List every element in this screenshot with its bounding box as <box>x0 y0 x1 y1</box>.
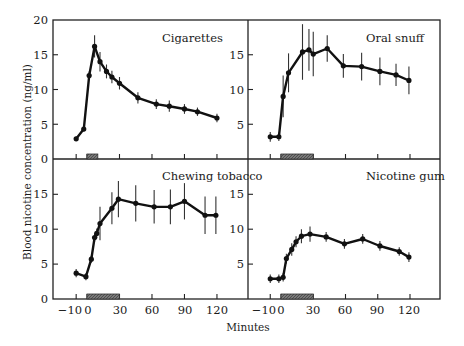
x-axis-left: −10 0 30 60 90 120 <box>58 303 228 317</box>
data-point <box>268 134 273 139</box>
xtick-label: 120 <box>398 303 420 317</box>
exposure-period-bar <box>281 154 313 159</box>
data-point <box>406 78 411 83</box>
xtick-label: 60 <box>145 303 160 317</box>
data-point <box>117 81 122 86</box>
xtick-label: 90 <box>178 303 193 317</box>
y-axis-bottom-right: 15 10 5 <box>229 187 244 271</box>
data-point <box>89 257 94 262</box>
ytick-label: 15 <box>229 187 244 201</box>
data-point <box>281 275 286 280</box>
data-point <box>109 206 114 211</box>
xtick-label: 0 <box>277 303 284 317</box>
ytick-label: 5 <box>237 257 244 271</box>
ytick-label: 10 <box>229 83 244 97</box>
data-point <box>324 234 329 239</box>
data-point <box>87 73 92 78</box>
y-axis-top-left: 20 15 10 5 0 <box>33 13 48 166</box>
ytick-label: 5 <box>237 118 244 132</box>
data-point <box>360 236 365 241</box>
data-point <box>289 247 294 252</box>
xtick-label: 90 <box>370 303 385 317</box>
data-point <box>182 199 187 204</box>
series-line-oral-snuff <box>270 49 409 137</box>
xtick-label: −10 <box>252 303 276 317</box>
data-point <box>377 243 382 248</box>
ytick-label: 15 <box>229 48 244 62</box>
data-point <box>341 63 346 68</box>
series-line-nicotine-gum <box>270 234 409 279</box>
y-axis-top-right: 15 10 5 <box>229 48 244 132</box>
xtick-label: 60 <box>338 303 353 317</box>
ytick-label: 10 <box>229 222 244 236</box>
data-point <box>74 271 79 276</box>
data-point <box>307 231 312 236</box>
data-point <box>293 239 298 244</box>
y-axis-bottom-left: 15 10 5 0 <box>33 187 48 306</box>
data-point <box>311 51 316 56</box>
data-point <box>306 47 311 52</box>
data-point <box>97 59 102 64</box>
ytick-label: 5 <box>41 257 48 271</box>
data-point <box>202 213 207 218</box>
exposure-period-bar <box>87 154 98 159</box>
data-point <box>325 46 330 51</box>
data-point <box>214 115 219 120</box>
data-point <box>74 136 79 141</box>
panel-title-chewing-tobacco: Chewing tobacco <box>162 169 263 183</box>
nicotine-figure: 20 15 10 5 0 15 10 5 0 15 10 5 15 10 5 −… <box>0 0 464 346</box>
data-point <box>168 204 173 209</box>
data-point <box>393 72 398 77</box>
data-point <box>300 49 305 54</box>
ytick-label: 0 <box>41 152 48 166</box>
panel-title-nicotine-gum: Nicotine gum <box>366 169 445 183</box>
data-series <box>74 24 412 283</box>
series-line-cigarettes <box>76 46 217 138</box>
xtick-label: 30 <box>306 303 321 317</box>
x-axis-label: Minutes <box>226 321 269 333</box>
data-point <box>284 256 289 261</box>
exposure-period-bar <box>87 294 119 299</box>
data-point <box>213 213 218 218</box>
data-point <box>94 231 99 236</box>
data-point <box>276 134 281 139</box>
data-point <box>281 94 286 99</box>
data-point <box>359 64 364 69</box>
panel-title-cigarettes: Cigarettes <box>162 31 223 45</box>
data-point <box>299 234 304 239</box>
ytick-label: 10 <box>33 222 48 236</box>
ytick-label: 10 <box>33 83 48 97</box>
xtick-label: 30 <box>113 303 128 317</box>
data-point <box>116 197 121 202</box>
data-point <box>377 69 382 74</box>
data-point <box>397 249 402 254</box>
data-point <box>182 106 187 111</box>
ytick-label: 0 <box>41 292 48 306</box>
xtick-label: −10 <box>58 303 82 317</box>
data-point <box>342 241 347 246</box>
ytick-label: 15 <box>33 48 48 62</box>
ytick-label: 5 <box>41 118 48 132</box>
data-point <box>83 274 88 279</box>
x-axis-right: −10 0 30 60 90 120 <box>252 303 420 317</box>
exposure-period-bar <box>281 294 313 299</box>
panel-title-oral-snuff: Oral snuff <box>366 31 425 45</box>
ytick-label: 20 <box>33 13 48 27</box>
data-point <box>152 204 157 209</box>
y-axis-label: Blood nicotine concentration (ng/ml) <box>21 64 33 260</box>
data-point <box>81 127 86 132</box>
xtick-label: 120 <box>206 303 228 317</box>
data-point <box>109 74 114 79</box>
ytick-label: 15 <box>33 187 48 201</box>
xtick-label: 0 <box>84 303 91 317</box>
data-point <box>167 104 172 109</box>
data-point <box>104 69 109 74</box>
data-point <box>97 221 102 226</box>
data-point <box>406 255 411 260</box>
data-point <box>135 95 140 100</box>
data-point <box>133 201 138 206</box>
data-point <box>286 70 291 75</box>
data-point <box>268 276 273 281</box>
data-point <box>195 109 200 114</box>
data-point <box>154 101 159 106</box>
